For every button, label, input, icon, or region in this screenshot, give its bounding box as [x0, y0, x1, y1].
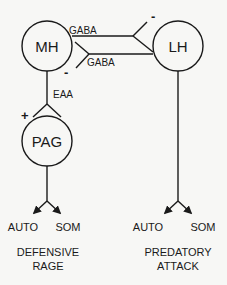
lh-to-mh-transmitter: GABA	[87, 57, 115, 68]
right-auto-label: AUTO	[133, 221, 164, 233]
lh-to-mh-sign: -	[64, 65, 68, 80]
mh-to-lh-sign: -	[151, 9, 155, 24]
left-som-label: SOM	[55, 221, 80, 233]
pag-output-arrows	[34, 166, 60, 213]
lh-label: LH	[168, 38, 187, 55]
defensive-rage-line2: RAGE	[32, 260, 63, 272]
right-som-label: SOM	[190, 221, 215, 233]
lh-output-arrows	[165, 71, 191, 213]
mh-to-lh-transmitter: GABA	[69, 25, 97, 36]
defensive-rage-line1: DEFENSIVE	[17, 246, 79, 258]
pag-label: PAG	[32, 133, 63, 150]
left-auto-label: AUTO	[8, 221, 39, 233]
mh-label: MH	[35, 38, 58, 55]
predatory-attack-line2: ATTACK	[157, 260, 199, 272]
mh-to-pag-sign: +	[21, 108, 29, 123]
neural-circuit-diagram: MH LH PAG GABA - GABA - EAA + AUTO SOM D…	[0, 0, 227, 285]
predatory-attack-line1: PREDATORY	[144, 246, 212, 258]
mh-to-pag-transmitter: EAA	[53, 89, 73, 100]
